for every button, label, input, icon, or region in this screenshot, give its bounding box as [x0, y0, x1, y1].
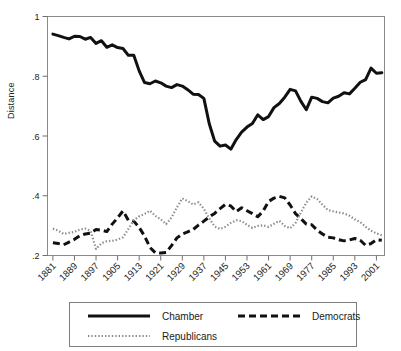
y-tick-label: .6 — [32, 132, 40, 142]
x-tick-label: 1985 — [315, 260, 338, 283]
x-tick-label: 1929 — [164, 260, 187, 283]
chart-figure: Distance .2.4.6.81 188118891897190519131… — [0, 0, 401, 351]
x-tick-label: 1913 — [121, 260, 144, 283]
x-tick-label: 1953 — [229, 260, 252, 283]
x-tick-label: 1905 — [100, 260, 123, 283]
x-tick-label: 1969 — [272, 260, 295, 283]
x-tick-label: 1961 — [251, 260, 274, 283]
x-tick-label: 1921 — [143, 260, 166, 283]
y-tick-label: .2 — [32, 251, 40, 261]
chart-legend: ChamberDemocratsRepublicans — [70, 303, 361, 347]
x-tick-label: 1881 — [35, 260, 58, 283]
y-axis-label: Distance — [6, 101, 16, 119]
line-chart: .2.4.6.81 188118891897190519131921192919… — [0, 0, 401, 351]
x-tick-label: 1889 — [57, 260, 80, 283]
x-tick-label: 1977 — [294, 260, 317, 283]
legend-label-chamber: Chamber — [162, 311, 204, 322]
legend-label-republicans: Republicans — [162, 331, 217, 342]
plot-frame — [48, 17, 385, 256]
y-tick-label: .8 — [32, 72, 40, 82]
y-tick-label: .4 — [32, 191, 40, 201]
x-tick-label: 1937 — [186, 260, 209, 283]
x-axis-ticks: 1881188918971905191319211929193719451953… — [35, 256, 381, 283]
y-axis-ticks: .2.4.6.81 — [32, 12, 48, 261]
x-tick-label: 1993 — [337, 260, 360, 283]
y-tick-label: 1 — [34, 12, 39, 22]
x-tick-label: 1945 — [208, 260, 231, 283]
x-tick-label: 2001 — [359, 260, 382, 283]
legend-label-democrats: Democrats — [312, 311, 360, 322]
x-tick-label: 1897 — [78, 260, 101, 283]
